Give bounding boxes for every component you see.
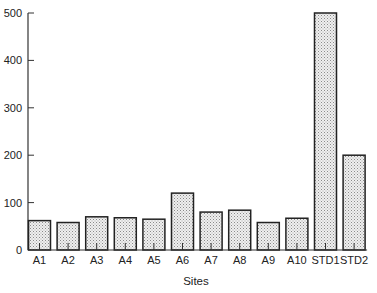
y-tick-label: 100 bbox=[4, 197, 22, 209]
bar-a6 bbox=[172, 193, 194, 250]
x-tick-label: A3 bbox=[90, 254, 103, 266]
y-tick-label: 300 bbox=[4, 102, 22, 114]
x-tick-label: A7 bbox=[204, 254, 217, 266]
y-tick-label: 400 bbox=[4, 54, 22, 66]
y-tick-label: 0 bbox=[16, 244, 22, 256]
x-tick-label: A2 bbox=[61, 254, 74, 266]
x-axis-title: Sites bbox=[183, 275, 209, 287]
x-tick-label: A6 bbox=[176, 254, 189, 266]
x-tick-label: A1 bbox=[33, 254, 46, 266]
x-tick-label: A8 bbox=[233, 254, 246, 266]
bars bbox=[29, 13, 366, 250]
y-tick-label: 500 bbox=[4, 7, 22, 19]
x-tick-label: A10 bbox=[287, 254, 307, 266]
bar-std1 bbox=[315, 13, 337, 250]
bar-std2 bbox=[343, 155, 365, 250]
x-tick-label: STD2 bbox=[340, 254, 368, 266]
x-tick-label: A5 bbox=[147, 254, 160, 266]
y-tick-label: 200 bbox=[4, 149, 22, 161]
x-tick-label: A9 bbox=[262, 254, 275, 266]
y-axis: 0100200300400500 bbox=[4, 7, 34, 256]
x-tick-label: A4 bbox=[119, 254, 132, 266]
x-tick-label: STD1 bbox=[311, 254, 339, 266]
bar-chart: 0100200300400500 A1A2A3A4A5A6A7A8A9A10ST… bbox=[0, 0, 377, 293]
